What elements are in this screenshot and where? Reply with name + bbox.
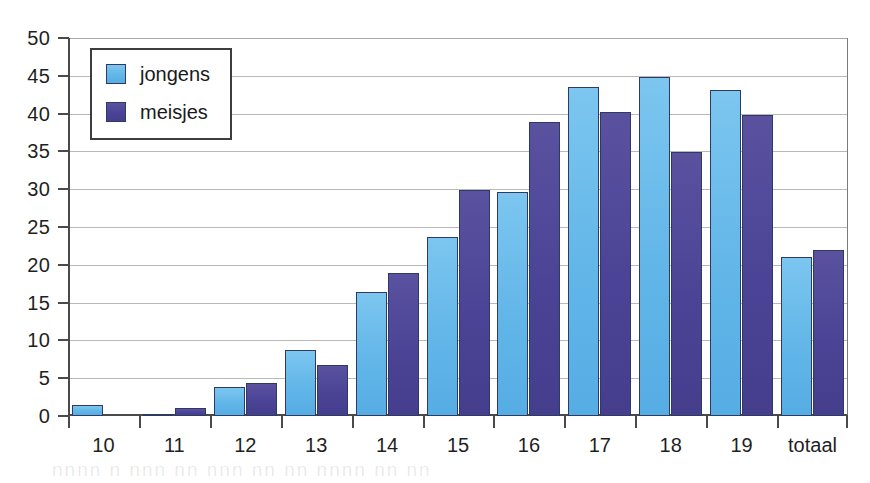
legend-swatch-meisjes-icon — [106, 102, 126, 122]
y-axis-label-45: 45 — [6, 66, 50, 86]
bar-jongens-15 — [427, 237, 458, 416]
x-tick-18 — [635, 416, 637, 428]
legend-label-meisjes: meisjes — [140, 102, 208, 122]
bar-jongens-17 — [568, 87, 599, 416]
bar-chart-figure: 05101520253035404550 1011121314151617181… — [0, 0, 870, 483]
bar-jongens-12 — [214, 387, 245, 416]
legend-item-jongens: jongens — [106, 60, 210, 88]
bar-meisjes-18 — [671, 152, 702, 416]
x-tick-15 — [423, 416, 425, 428]
x-tick-12 — [210, 416, 212, 428]
x-tick-end — [846, 416, 848, 428]
x-tick-14 — [352, 416, 354, 428]
bar-meisjes-19 — [742, 115, 773, 416]
bar-jongens-18 — [639, 77, 670, 416]
bar-meisjes-totaal — [813, 250, 844, 416]
legend-label-jongens: jongens — [140, 64, 210, 84]
bar-jongens-19 — [710, 90, 741, 416]
x-tick-10 — [68, 416, 70, 428]
y-axis-label-20: 20 — [6, 255, 50, 275]
x-tick-19 — [706, 416, 708, 428]
y-axis-label-40: 40 — [6, 104, 50, 124]
x-tick-16 — [493, 416, 495, 428]
cut-off-caption-text: nnnn n nnn nn nnn nn nn nnnn nn nn — [52, 466, 432, 479]
y-tick-30 — [58, 188, 69, 190]
y-tick-40 — [58, 113, 69, 115]
x-tick-11 — [139, 416, 141, 428]
x-tick-13 — [281, 416, 283, 428]
bar-meisjes-13 — [317, 365, 348, 416]
y-tick-15 — [58, 302, 69, 304]
x-tick-totaal — [777, 416, 779, 428]
y-tick-5 — [58, 377, 69, 379]
bar-meisjes-16 — [529, 122, 560, 416]
y-tick-35 — [58, 150, 69, 152]
y-tick-10 — [58, 339, 69, 341]
legend-swatch-jongens-icon — [106, 64, 126, 84]
y-axis-label-30: 30 — [6, 179, 50, 199]
bar-meisjes-11 — [175, 408, 206, 416]
bar-jongens-10 — [72, 405, 103, 416]
y-axis-label-50: 50 — [6, 28, 50, 48]
y-tick-45 — [58, 75, 69, 77]
y-tick-25 — [58, 226, 69, 228]
y-axis-label-25: 25 — [6, 217, 50, 237]
bar-meisjes-12 — [246, 383, 277, 416]
bar-meisjes-15 — [459, 190, 490, 416]
bar-meisjes-14 — [388, 273, 419, 416]
y-tick-50 — [58, 37, 69, 39]
cut-off-caption-strip: nnnn n nnn nn nnn nn nn nnnn nn nn — [0, 466, 870, 483]
y-axis-label-15: 15 — [6, 293, 50, 313]
chart-legend: jongens meisjes — [90, 48, 232, 140]
x-tick-17 — [564, 416, 566, 428]
bar-jongens-16 — [497, 192, 528, 416]
y-axis-label-5: 5 — [6, 368, 50, 388]
y-axis-label-0: 0 — [6, 406, 50, 426]
bar-meisjes-17 — [600, 112, 631, 416]
x-axis-label-totaal: totaal — [763, 434, 863, 456]
y-axis-label-10: 10 — [6, 330, 50, 350]
bar-jongens-14 — [356, 292, 387, 416]
y-axis-label-35: 35 — [6, 141, 50, 161]
bar-jongens-13 — [285, 350, 316, 416]
legend-item-meisjes: meisjes — [106, 98, 208, 126]
bar-jongens-11 — [143, 414, 174, 416]
y-tick-20 — [58, 264, 69, 266]
bar-jongens-totaal — [781, 257, 812, 416]
